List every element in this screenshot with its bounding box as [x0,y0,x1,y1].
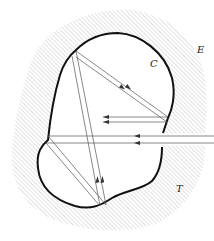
label-cavity: C [150,58,158,69]
label-exterior: E [196,44,205,55]
cavity-diagram: C E T [0,0,214,241]
entrance-channel [160,134,214,146]
